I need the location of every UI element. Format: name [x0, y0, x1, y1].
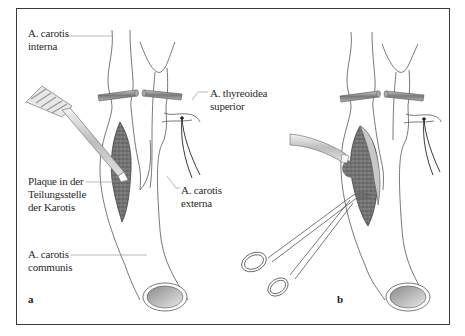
label-line: interna	[28, 40, 69, 53]
label-line: A. carotis	[181, 184, 222, 197]
panel-b-ligature	[423, 118, 440, 175]
panel-a-leader-lines	[65, 36, 208, 255]
label-line: communis	[28, 261, 72, 274]
scissors-instrument	[238, 193, 370, 300]
label-line: der Karotis	[28, 201, 86, 214]
label-carotis-externa: A. carotis externa	[181, 184, 222, 210]
label-line: externa	[181, 197, 222, 210]
label-line: A. thyreoidea	[210, 87, 267, 100]
label-line: superior	[210, 100, 267, 113]
panel-a-vessel-clamps	[98, 90, 182, 101]
label-thyreoidea-superior: A. thyreoidea superior	[210, 87, 267, 113]
label-plaque: Plaque in der Teilungsstelle der Karotis	[28, 175, 86, 214]
suction-tube-instrument	[290, 134, 349, 163]
panel-a-lumen	[143, 283, 187, 311]
label-line: A. carotis	[28, 27, 69, 40]
label-carotis-communis: A. carotis communis	[28, 248, 72, 274]
label-carotis-interna: A. carotis interna	[28, 27, 69, 53]
label-line: Teilungsstelle	[28, 188, 86, 201]
panel-b-vessel-clamps	[340, 91, 424, 102]
label-line: Plaque in der	[28, 175, 86, 188]
label-line: A. carotis	[28, 248, 72, 261]
panel-letter-b: b	[337, 293, 343, 305]
panel-b-lumen	[386, 283, 430, 311]
dissector-instrument	[26, 86, 128, 182]
illustration-canvas	[0, 0, 465, 336]
panel-a-ligature	[181, 117, 200, 178]
carotid-endarterectomy-figure: A. carotis interna A. thyreoidea superio…	[0, 0, 465, 336]
panel-letter-a: a	[28, 293, 34, 305]
